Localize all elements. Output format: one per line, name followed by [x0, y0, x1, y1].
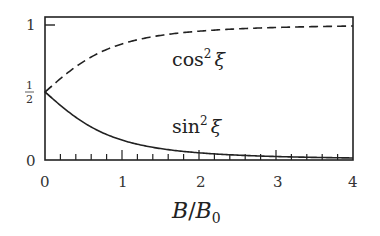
x-axis-label: B/B0: [171, 198, 221, 226]
ytick-label-half-num: 1: [26, 79, 33, 92]
ytick-label-0: 0: [26, 152, 36, 170]
plot-frame: [45, 17, 353, 160]
xtick-label-3: 3: [273, 173, 283, 191]
ytick-label-1: 1: [26, 16, 36, 34]
xtick-label-4: 4: [348, 173, 358, 191]
chart: 1 0 1 2 0 1 2 3 4 cos2ξ sin2ξ B/B0: [0, 0, 380, 236]
sin2-label: sin2ξ: [172, 114, 223, 137]
x-ticks: [60, 150, 337, 160]
ytick-label-half-den: 2: [26, 93, 33, 106]
xtick-label-0: 0: [40, 173, 50, 191]
cos2-label: cos2ξ: [172, 47, 226, 70]
xtick-label-1: 1: [118, 173, 128, 191]
xtick-label-2: 2: [196, 173, 206, 191]
